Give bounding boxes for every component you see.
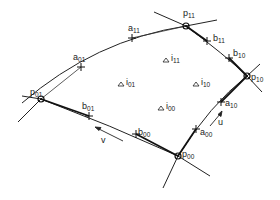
label-v: v bbox=[101, 135, 106, 145]
triangle-i00-icon bbox=[158, 106, 164, 110]
label-b11: b11 bbox=[213, 33, 225, 44]
label-i00: i00 bbox=[166, 101, 176, 112]
curve-leftside bbox=[18, 99, 41, 122]
triangle-i10-icon bbox=[193, 82, 199, 86]
label-a10: a10 bbox=[225, 98, 238, 109]
curve-right bbox=[154, 12, 262, 92]
tangent-p10-b10 bbox=[229, 58, 247, 76]
triangle-i01-icon bbox=[118, 82, 124, 86]
corner-p10-icon bbox=[244, 73, 250, 79]
curve-left bbox=[163, 64, 260, 188]
label-p01: p01 bbox=[30, 87, 43, 98]
label-b10: b10 bbox=[233, 48, 246, 59]
patch-diagram: p01 p11 p10 p00 a01 a11 b11 b10 a10 a00 … bbox=[0, 0, 280, 200]
label-a01: a01 bbox=[73, 52, 86, 63]
tangent-p11-b11 bbox=[186, 26, 207, 41]
cross-a01-icon bbox=[77, 63, 85, 71]
label-p10: p10 bbox=[251, 72, 264, 83]
label-a11: a11 bbox=[128, 23, 140, 34]
cross-a11-icon bbox=[128, 34, 136, 42]
label-u: u bbox=[218, 117, 223, 127]
tangent-p11-a11 bbox=[132, 26, 186, 38]
label-b00: b00 bbox=[138, 127, 151, 138]
label-i10: i10 bbox=[201, 77, 211, 88]
curve-bottom bbox=[22, 96, 210, 176]
corner-p00-icon bbox=[175, 153, 181, 159]
label-a00: a00 bbox=[200, 127, 213, 138]
label-b01: b01 bbox=[82, 101, 95, 112]
label-p11: p11 bbox=[183, 8, 195, 19]
triangle-i11-icon bbox=[163, 58, 169, 62]
label-i01: i01 bbox=[126, 77, 136, 88]
label-i11: i11 bbox=[171, 53, 180, 64]
label-p00: p00 bbox=[182, 149, 195, 160]
arrow-v-icon bbox=[95, 127, 123, 141]
